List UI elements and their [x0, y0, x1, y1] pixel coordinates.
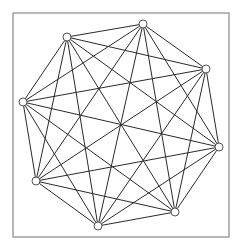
edge-1-6: [23, 69, 206, 102]
edge-2-4: [98, 147, 219, 226]
vertex-3: [171, 208, 179, 216]
edge-2-5: [36, 147, 219, 181]
edge-0-7: [67, 24, 143, 37]
vertex-4: [94, 222, 102, 230]
edge-0-3: [143, 24, 175, 212]
vertex-1: [202, 65, 210, 73]
edge-4-7: [67, 37, 98, 226]
vertex-7: [63, 33, 71, 41]
edge-3-7: [67, 37, 175, 212]
vertex-5: [32, 177, 40, 185]
vertex-6: [19, 98, 27, 106]
edge-1-4: [98, 69, 206, 226]
edge-0-5: [36, 24, 143, 181]
edge-5-7: [36, 37, 67, 181]
edge-5-6: [23, 102, 36, 181]
edge-1-7: [67, 37, 206, 69]
vertex-0: [139, 20, 147, 28]
edge-group: [23, 24, 219, 226]
complete-graph-diagram: [0, 0, 245, 252]
edge-4-6: [23, 102, 98, 226]
vertex-2: [215, 143, 223, 151]
edge-2-7: [67, 37, 219, 147]
edge-1-2: [206, 69, 219, 147]
